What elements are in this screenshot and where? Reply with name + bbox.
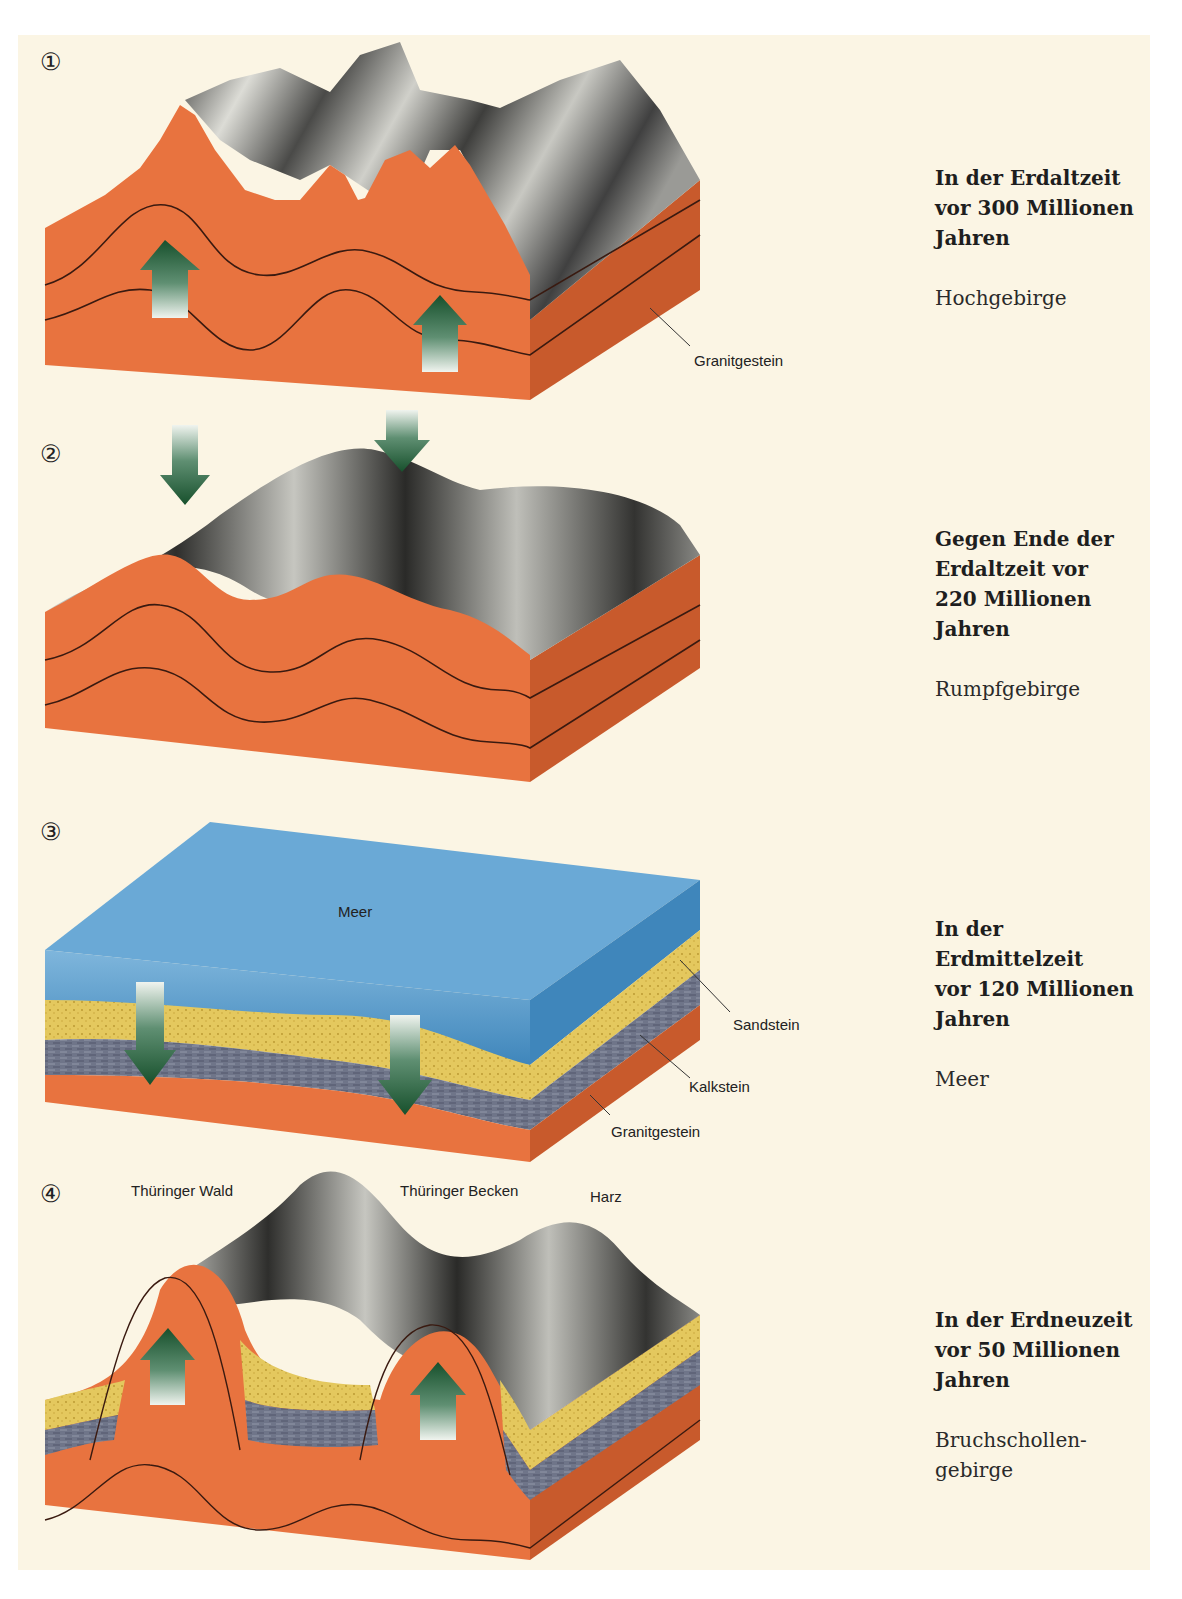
stage-1-subtitle: Hochgebirge	[935, 283, 1134, 313]
stage-4-subtitle: Bruchschollen- gebirge	[935, 1425, 1133, 1485]
label-harz: Harz	[590, 1188, 622, 1205]
label-thueringer-wald: Thüringer Wald	[131, 1182, 233, 1199]
stage-3-subtitle: Meer	[935, 1064, 1134, 1094]
label-granitgestein-1: Granitgestein	[694, 352, 783, 369]
stage-1-number: ①	[40, 48, 62, 76]
stage-3-number: ③	[40, 818, 62, 846]
block-1-hochgebirge	[45, 42, 700, 400]
label-thueringer-becken: Thüringer Becken	[400, 1182, 518, 1199]
label-granitgestein-3: Granitgestein	[611, 1123, 700, 1140]
block-2-rumpfgebirge	[45, 410, 700, 782]
stage-2-subtitle: Rumpfgebirge	[935, 674, 1114, 704]
stage-1-caption: In der Erdaltzeit vor 300 Millionen Jahr…	[935, 163, 1134, 313]
label-kalkstein: Kalkstein	[689, 1078, 750, 1095]
block-3-meer	[45, 822, 730, 1162]
stage-2-title: Gegen Ende der Erdaltzeit vor 220 Millio…	[935, 524, 1114, 644]
stage-4-title: In der Erdneuzeit vor 50 Millionen Jahre…	[935, 1305, 1133, 1395]
label-sandstein: Sandstein	[733, 1016, 800, 1033]
label-meer: Meer	[338, 903, 372, 920]
stage-4-number: ④	[40, 1180, 62, 1208]
subsidence-arrow-icon	[160, 425, 210, 505]
stage-4-caption: In der Erdneuzeit vor 50 Millionen Jahre…	[935, 1305, 1133, 1485]
stage-3-caption: In der Erdmittelzeit vor 120 Millionen J…	[935, 914, 1134, 1094]
block-4-bruchschollengebirge	[45, 1171, 700, 1560]
stage-3-title: In der Erdmittelzeit vor 120 Millionen J…	[935, 914, 1134, 1034]
stage-1-title: In der Erdaltzeit vor 300 Millionen Jahr…	[935, 163, 1134, 253]
stage-2-caption: Gegen Ende der Erdaltzeit vor 220 Millio…	[935, 524, 1114, 704]
stage-2-number: ②	[40, 440, 62, 468]
